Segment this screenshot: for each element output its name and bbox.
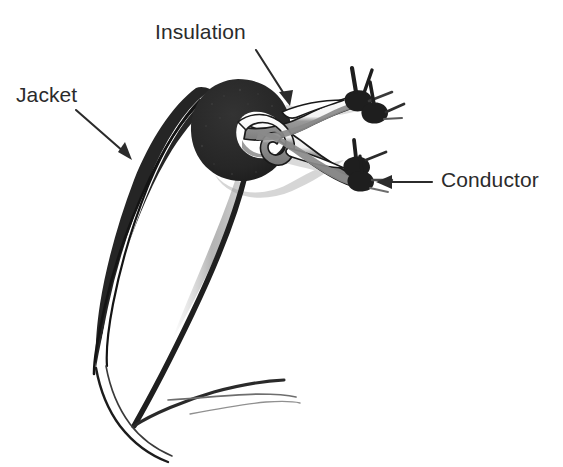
label-conductor: Conductor	[441, 169, 539, 190]
label-jacket: Jacket	[16, 84, 77, 105]
conductor-strand-l2	[366, 152, 386, 160]
jacket-lower-tail	[134, 172, 300, 426]
conductor-strand-l1	[354, 140, 356, 158]
cable-illustration	[0, 0, 563, 467]
label-insulation: Insulation	[155, 21, 246, 42]
figure-root: Insulation Jacket Conductor	[0, 0, 563, 467]
conductor-strand-u1	[352, 68, 356, 92]
conductor-tip-upper	[345, 68, 404, 124]
conductor-arrowhead-icon	[376, 175, 392, 189]
conductor-strand-l5	[370, 188, 388, 192]
conductor-strand-l3	[360, 156, 362, 172]
jacket-lower-tail-wisp	[168, 394, 296, 400]
jacket-arrowhead-icon	[118, 142, 132, 160]
jacket-lower-tail-wisp2	[190, 401, 300, 414]
jacket-lower-tail-shadow	[172, 178, 244, 340]
conductor-strand-u6	[384, 118, 402, 119]
conductor-ferrule-upper2	[361, 103, 388, 124]
jacket-leader-line	[76, 110, 124, 152]
conductor-strand-u5	[386, 104, 404, 112]
